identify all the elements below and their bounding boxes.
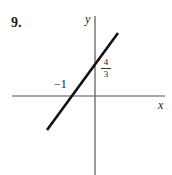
fraction-denominator: 3 [104, 69, 109, 79]
y-intercept-label: 4 3 [101, 58, 111, 79]
y-axis-label: y [85, 12, 90, 27]
x-intercept-label: −1 [54, 77, 67, 92]
x-axis-label: x [158, 98, 163, 113]
fraction-numerator: 4 [104, 57, 109, 67]
